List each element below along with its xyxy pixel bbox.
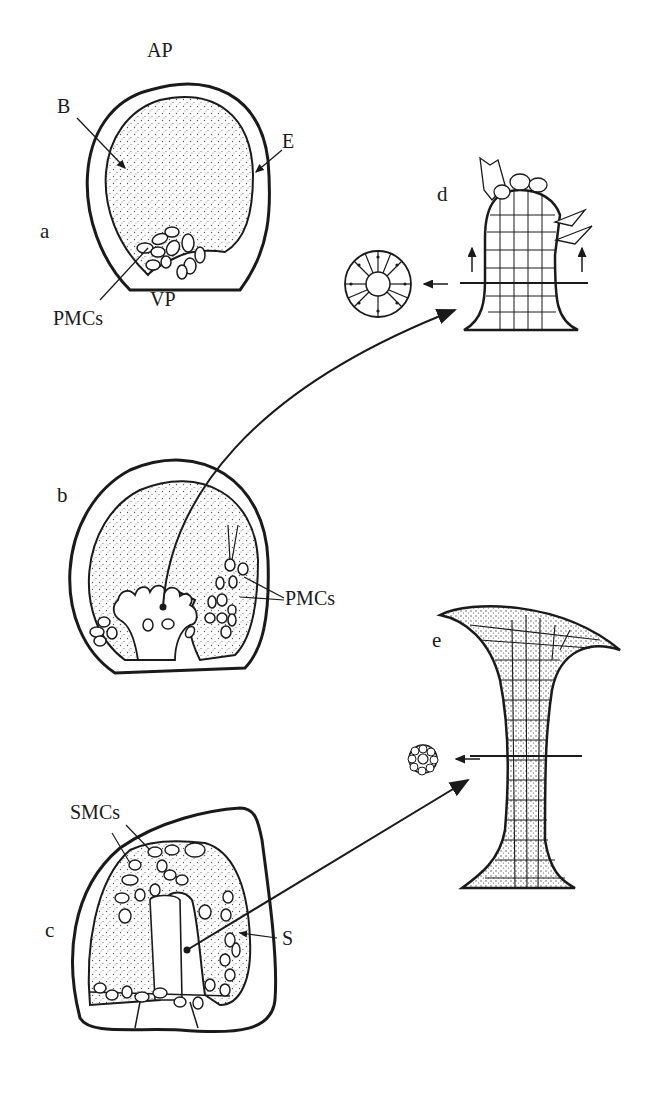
panel-letter-a: a bbox=[40, 221, 49, 242]
label-ectoderm: E bbox=[282, 131, 294, 151]
panel-c-embryo bbox=[73, 808, 277, 1032]
figure-drawing bbox=[0, 0, 656, 1105]
label-spicule: S bbox=[282, 928, 293, 948]
cross-section-rosette-e bbox=[408, 745, 438, 775]
label-pmcs-b: PMCs bbox=[285, 588, 335, 608]
panel-a-embryo bbox=[77, 84, 282, 300]
label-smcs: SMCs bbox=[70, 802, 120, 822]
panel-d-spicule bbox=[345, 158, 592, 330]
cross-section-rosette-d bbox=[345, 251, 411, 317]
label-vegetal-pole: VP bbox=[150, 289, 176, 309]
figure: AP B E a VP PMCs d b PMCs e SMCs c S bbox=[0, 0, 656, 1105]
panel-letter-c: c bbox=[45, 920, 54, 941]
label-pmcs-a: PMCs bbox=[53, 308, 103, 328]
panel-b-embryo bbox=[70, 460, 284, 673]
label-animal-pole: AP bbox=[147, 40, 173, 60]
panel-letter-d: d bbox=[437, 184, 448, 205]
panel-letter-b: b bbox=[57, 485, 68, 506]
label-blastocoel: B bbox=[57, 96, 70, 116]
panel-letter-e: e bbox=[432, 630, 441, 651]
